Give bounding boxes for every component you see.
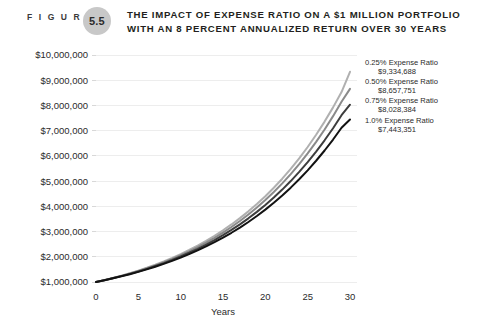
x-tick-label: 25 (302, 291, 313, 302)
x-tick-label: 10 (175, 291, 186, 302)
axis-tick-stubs (92, 55, 96, 282)
figure-number: 5.5 (89, 15, 105, 27)
x-tick-label: 5 (136, 291, 141, 302)
y-tick-label: $7,000,000 (40, 125, 88, 136)
legend-series-value: $8,028,384 (378, 105, 416, 114)
legend-series-value: $8,657,751 (378, 86, 416, 95)
x-axis-title: Years (211, 306, 235, 317)
y-tick-label: $3,000,000 (40, 226, 88, 237)
series-line (96, 72, 350, 282)
y-axis-tick-labels: $1,000,000$2,000,000$3,000,000$4,000,000… (35, 49, 88, 287)
legend-series-name: 0.75% Expense Ratio (365, 96, 438, 105)
y-tick-label: $6,000,000 (40, 150, 88, 161)
x-tick-label: 20 (260, 291, 271, 302)
chart-plot-area: $1,000,000$2,000,000$3,000,000$4,000,000… (0, 44, 477, 327)
y-tick-label: $10,000,000 (35, 49, 88, 60)
legend-series-name: 0.50% Expense Ratio (365, 77, 438, 86)
x-tick-label: 15 (218, 291, 229, 302)
legend-series-value: $9,334,688 (378, 67, 416, 76)
gridlines (96, 55, 357, 282)
data-series (96, 72, 350, 282)
series-line (96, 89, 350, 282)
x-axis-tick-labels: 051015202530 (93, 291, 355, 302)
y-tick-label: $4,000,000 (40, 201, 88, 212)
figure-header: F I G U R E 5.5 THE IMPACT OF EXPENSE RA… (0, 0, 477, 44)
legend-series-name: 0.25% Expense Ratio (365, 58, 438, 67)
x-tick-label: 30 (345, 291, 356, 302)
chart-svg: $1,000,000$2,000,000$3,000,000$4,000,000… (0, 44, 477, 327)
legend-series-name: 1.0% Expense Ratio (365, 116, 434, 125)
figure-number-badge: 5.5 (83, 7, 111, 35)
chart-title-line-2: WITH AN 8 PERCENT ANNUALIZED RETURN OVER… (127, 22, 471, 36)
legend-series-value: $7,443,351 (378, 125, 416, 134)
series-inline-legend: 0.25% Expense Ratio$9,334,6880.50% Expen… (365, 58, 438, 134)
chart-title: THE IMPACT OF EXPENSE RATIO ON A $1 MILL… (127, 8, 471, 36)
y-tick-label: $1,000,000 (40, 276, 88, 287)
series-line (96, 105, 350, 282)
y-tick-label: $2,000,000 (40, 251, 88, 262)
series-line (96, 119, 350, 282)
y-tick-label: $9,000,000 (40, 75, 88, 86)
x-tick-label: 0 (93, 291, 98, 302)
y-tick-label: $8,000,000 (40, 100, 88, 111)
y-tick-label: $5,000,000 (40, 176, 88, 187)
chart-title-line-1: THE IMPACT OF EXPENSE RATIO ON A $1 MILL… (127, 8, 471, 22)
